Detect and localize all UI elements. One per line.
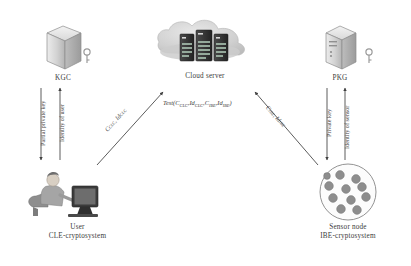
formula-arg4-sub: IBE <box>223 103 230 108</box>
formula-close: ) <box>230 99 232 106</box>
node-label-pkg: PKG <box>320 74 360 82</box>
formula-arg2-sub: CLC <box>195 103 203 108</box>
server-tower-icon <box>326 26 356 69</box>
equality-test-formula: Test(CCLC,IdCLC,CIBE,IdIBE) <box>163 99 232 108</box>
formula-arg1-sub: CLC <box>179 103 187 108</box>
node-label-cloud-server: Cloud server <box>170 72 240 80</box>
formula-arg3-sub: IBE <box>209 103 216 108</box>
node-label-user: User <box>35 223 120 231</box>
server-box-icon <box>47 26 81 69</box>
edge-label-partial-private-key: Partial private key <box>39 101 46 146</box>
key-icon <box>84 49 90 63</box>
cloud-servers-icon <box>158 20 245 61</box>
edge-label-identity-of-sensor: Identity of sensor <box>343 106 350 149</box>
node-label-sensor-node: Sensor node <box>308 223 388 231</box>
sensor-network-icon <box>320 164 376 220</box>
node-sublabel-user-cryptosystem: CLE-cryptosystem <box>24 232 131 240</box>
edge-label-private-key: Private key <box>325 109 332 137</box>
diagram-canvas: KGC Cloud server PKG User CLE-cryptosyst… <box>0 0 411 266</box>
formula-name: Test <box>163 99 173 106</box>
node-sublabel-sensor-cryptosystem: IBE-cryptosystem <box>296 232 400 240</box>
connector-sensor-to-cloud <box>255 92 318 165</box>
key-icon-pkg <box>366 49 372 63</box>
user-at-computer-icon <box>29 172 98 217</box>
node-label-kgc: KGC <box>43 74 83 82</box>
edge-label-identity-of-user: Identity of user <box>58 104 65 142</box>
